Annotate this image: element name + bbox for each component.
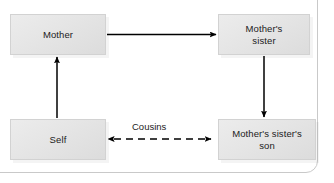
diagram-canvas: Cousins Mother Mother's sister Self Moth… (0, 0, 334, 183)
node-self-label: Self (50, 134, 67, 146)
node-mothers-sister-label-line2: sister (252, 35, 275, 46)
node-mother[interactable]: Mother (10, 14, 106, 55)
node-mothers-sisters-son-label: Mother's sister's son (232, 128, 302, 152)
node-mother-label: Mother (43, 29, 73, 41)
node-mothers-sisters-son[interactable]: Mother's sister's son (218, 119, 316, 160)
node-mothers-sister-label: Mother's sister (246, 23, 283, 47)
edge-label-cousins: Cousins (132, 121, 166, 132)
node-self[interactable]: Self (10, 119, 106, 160)
node-mothers-sisters-son-label-line2: son (259, 140, 275, 151)
node-mothers-sisters-son-label-line1: Mother's sister's (232, 128, 302, 139)
node-mothers-sister-label-line1: Mother's (246, 23, 283, 34)
node-mothers-sister[interactable]: Mother's sister (218, 14, 310, 55)
